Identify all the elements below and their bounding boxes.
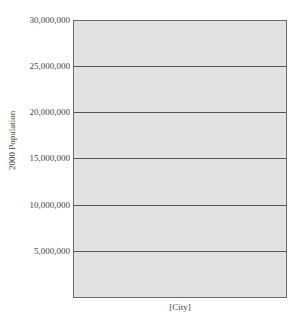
x-axis-label: [City] [73,302,287,312]
y-tick-20m: 20,000,000 [30,107,71,117]
y-tick-10m: 10,000,000 [30,200,71,210]
gridline-25m [74,66,286,67]
y-tick-15m: 15,000,000 [30,153,71,163]
y-tick-30m: 30,000,000 [30,15,71,25]
gridline-10m [74,205,286,206]
gridline-15m [74,158,286,159]
y-tick-25m: 25,000,000 [30,61,71,71]
plot-area [73,20,287,298]
gridline-5m [74,251,286,252]
gridline-20m [74,112,286,113]
y-tick-5m: 5,000,000 [34,246,70,256]
y-axis-label: 2000 Population [7,150,17,170]
